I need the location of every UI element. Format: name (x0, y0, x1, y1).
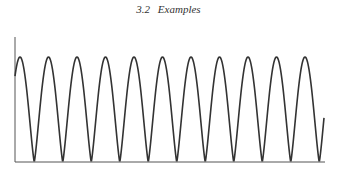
signal-curve (15, 57, 324, 161)
chart (0, 0, 337, 178)
